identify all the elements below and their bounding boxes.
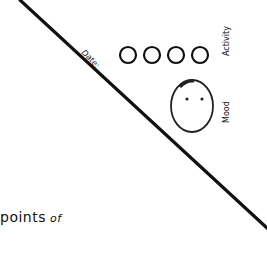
activity-circles [120, 47, 208, 63]
activity-circle-1[interactable] [120, 47, 136, 63]
face-right-eye [200, 97, 203, 100]
of-word: of [50, 212, 62, 225]
face-left-eye [185, 97, 188, 100]
points-of-text: pointsof [0, 209, 62, 225]
activity-circle-2[interactable] [144, 47, 160, 63]
mood-label: Mood [222, 101, 231, 123]
points-word: points [0, 209, 46, 225]
activity-circle-3[interactable] [168, 47, 184, 63]
mood-face-icon [171, 80, 213, 132]
activity-label: Activity [222, 26, 231, 56]
activity-circle-4[interactable] [192, 47, 208, 63]
